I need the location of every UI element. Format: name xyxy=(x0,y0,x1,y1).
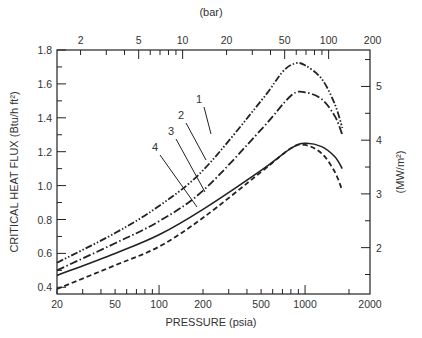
x2-tick-label: 2 xyxy=(78,34,84,46)
y2-tick-label: 4 xyxy=(376,134,382,146)
y-tick-label: 1.4 xyxy=(37,112,52,124)
chf-chart: (bar) PRESSURE (psia) CRITICAL HEAT FLUX… xyxy=(0,0,422,338)
curve-label-4: 4 xyxy=(152,141,158,153)
x2-tick-label: 5 xyxy=(136,34,142,46)
x-tick-label: 1000 xyxy=(293,298,317,310)
y-axis-label: CRITICAL HEAT FLUX (Btu/h ft²) xyxy=(8,91,20,252)
x-tick-label: 20 xyxy=(51,298,63,310)
leader-line-2 xyxy=(186,123,206,160)
y-tick-label: 1.0 xyxy=(37,180,52,192)
x2-axis-label: (bar) xyxy=(199,6,222,18)
x-axis-label: PRESSURE (psia) xyxy=(165,316,256,328)
y2-axis-label: (MW/m²) xyxy=(394,151,406,194)
y2-tick-label: 5 xyxy=(376,80,382,92)
x-tick-label: 200 xyxy=(194,298,212,310)
y2-tick-label: 3 xyxy=(376,188,382,200)
x2-tick-label: 50 xyxy=(279,34,291,46)
x-tick-label: 50 xyxy=(109,298,121,310)
y-tick-label: 1.8 xyxy=(37,44,52,56)
y2-tick-label: 2 xyxy=(376,242,382,254)
y-tick-label: 0.6 xyxy=(37,247,52,259)
x2-tick-label: 100 xyxy=(320,34,338,46)
plot-axes: 205010020050010002000251020501002000.40.… xyxy=(37,34,382,310)
curve-label-1: 1 xyxy=(196,93,202,105)
curve-label-2: 2 xyxy=(178,109,184,121)
y-tick-label: 1.2 xyxy=(37,146,52,158)
curve-label-3: 3 xyxy=(168,125,174,137)
x-tick-label: 100 xyxy=(150,298,168,310)
leader-line-1 xyxy=(204,107,211,134)
curve-4 xyxy=(57,144,342,289)
curve-3 xyxy=(57,143,342,275)
y-tick-label: 1.6 xyxy=(37,78,52,90)
y-tick-label: 0.4 xyxy=(37,281,52,293)
x-tick-label: 2000 xyxy=(358,298,382,310)
curve-2 xyxy=(57,92,342,271)
y-tick-label: 0.8 xyxy=(37,214,52,226)
x-tick-label: 500 xyxy=(252,298,270,310)
x2-tick-label: 10 xyxy=(177,34,189,46)
x2-tick-label: 20 xyxy=(221,34,233,46)
x2-tick-label: 200 xyxy=(364,34,382,46)
